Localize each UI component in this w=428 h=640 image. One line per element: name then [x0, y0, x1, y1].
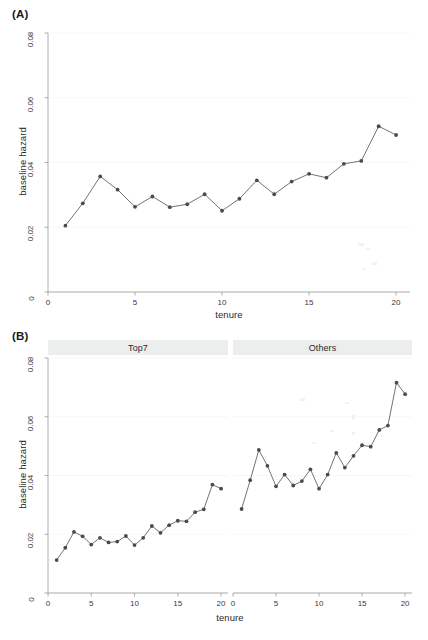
panel-a: (A) baseline hazard tenure 00.020.040.06…: [0, 0, 428, 320]
panel-a-plot: [0, 0, 428, 320]
panel-b: (B) Top7 Others baseline hazard tenure 0…: [0, 320, 428, 640]
figure-baseline-hazard: (A) baseline hazard tenure 00.020.040.06…: [0, 0, 428, 640]
panel-b-plot: [0, 320, 428, 640]
